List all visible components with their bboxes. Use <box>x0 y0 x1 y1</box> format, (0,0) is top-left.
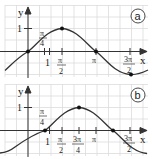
x-tick-1: 1 <box>45 57 50 68</box>
tick-pi-over-2-num: π <box>58 56 62 65</box>
y-tick-1: 1 <box>17 23 22 34</box>
tick-pi-over-4-den: 4 <box>40 39 44 48</box>
tick-pi: π <box>92 135 96 144</box>
badge-label: a <box>135 10 142 22</box>
tick-pi-over-4-den: 4 <box>40 118 44 127</box>
y-axis-label: y <box>18 6 24 18</box>
tick-pi-over-4-num: π <box>40 29 44 38</box>
tick-3pi-over-4-den: 4 <box>76 146 80 155</box>
tick-3pi-over-2-den: 2 <box>127 145 131 154</box>
y-axis-label: y <box>18 85 24 97</box>
graph-b: y x 1 1 π 4 π 2 3π 4 π 3π 2 b <box>0 79 153 158</box>
tick-3pi-over-2-num: 3π <box>124 55 132 64</box>
graph-b-svg: y x 1 1 π 4 π 2 3π 4 π 3π 2 b <box>0 79 153 158</box>
graph-a-svg: y x 1 1 π 4 π 2 π 3π 2 a <box>0 0 153 79</box>
tick-pi-over-4-num: π <box>40 107 44 116</box>
y-tick-1: 1 <box>17 102 22 113</box>
tick-3pi-over-2-den: 2 <box>127 66 131 75</box>
tick-pi-over-2-num: π <box>58 135 62 144</box>
tick-pi: π <box>92 56 96 65</box>
graph-a: y x 1 1 π 4 π 2 π 3π 2 a <box>0 0 153 79</box>
tick-pi-over-2-den: 2 <box>59 146 63 155</box>
badge-label: b <box>135 89 141 101</box>
x-axis-label: x <box>140 54 146 66</box>
tick-3pi-over-2-num: 3π <box>124 134 132 143</box>
x-axis-label: x <box>140 133 146 145</box>
tick-pi-over-2-den: 2 <box>59 67 63 76</box>
tick-3pi-over-4-num: 3π <box>73 135 81 144</box>
x-tick-1: 1 <box>45 136 50 147</box>
